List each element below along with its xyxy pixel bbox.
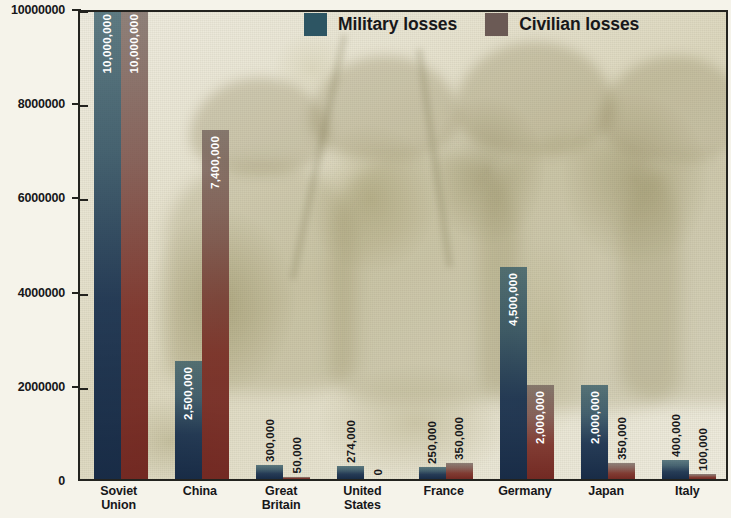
soldier-body-shape: [620, 154, 728, 404]
bar-united-states-military: 274,000: [337, 466, 364, 479]
y-tick-mark-inner: [80, 388, 88, 390]
legend-item-military: Military losses: [304, 13, 457, 36]
x-category-label-line: China: [159, 484, 240, 498]
helmet-shape: [310, 56, 460, 160]
bar-value-label: 2,000,000: [534, 391, 546, 444]
bar-italy-civilian: 100,000: [689, 474, 716, 479]
x-category-label-line: Italy: [647, 484, 728, 498]
y-tick-label: 4000000: [18, 286, 65, 300]
bar-china-civilian: 7,400,000: [202, 130, 229, 479]
legend-label-military: Military losses: [338, 14, 457, 35]
plot-area: 10,000,00010,000,0002,500,0007,400,00030…: [78, 10, 728, 481]
x-category-label: UnitedStates: [322, 484, 403, 512]
x-axis: SovietUnionChinaGreatBritainUnitedStates…: [78, 484, 728, 518]
y-tick-mark-inner: [80, 294, 88, 296]
x-category-label-line: Union: [78, 498, 159, 512]
x-category-label-line: States: [322, 498, 403, 512]
legend-swatch-military-icon: [304, 13, 327, 36]
x-category-label-line: Britain: [241, 498, 322, 512]
y-tick-label: 8000000: [18, 97, 65, 111]
bar-great-britain-civilian: 50,000: [283, 477, 310, 479]
y-tick-mark-inner: [80, 199, 88, 201]
bar-value-label: 0: [372, 469, 384, 476]
bar-value-label: 4,500,000: [507, 273, 519, 326]
x-category-label: GreatBritain: [241, 484, 322, 512]
bar-italy-military: 400,000: [662, 460, 689, 479]
bar-chart-figure: 0200000040000006000000800000010000000 10…: [0, 0, 731, 518]
x-category-label-line: Great: [241, 484, 322, 498]
x-category-label: France: [403, 484, 484, 498]
bar-soviet-union-civilian: 10,000,000: [121, 10, 148, 479]
bar-value-label: 7,400,000: [209, 136, 221, 189]
legend-item-civilian: Civilian losses: [485, 13, 639, 36]
bar-value-label: 274,000: [345, 420, 357, 463]
bar-value-label: 300,000: [264, 419, 276, 462]
bar-value-label: 350,000: [453, 417, 465, 460]
x-category-label-line: Germany: [484, 484, 565, 498]
bar-value-label: 10,000,000: [101, 14, 113, 74]
bar-value-label: 10,000,000: [128, 14, 140, 74]
bar-value-label: 2,000,000: [589, 391, 601, 444]
chart-legend: Military losses Civilian losses: [304, 13, 639, 36]
bar-japan-military: 2,000,000: [581, 385, 608, 479]
legend-label-civilian: Civilian losses: [519, 14, 639, 35]
bar-china-military: 2,500,000: [175, 361, 202, 479]
x-category-label: Italy: [647, 484, 728, 498]
y-axis: 0200000040000006000000800000010000000: [0, 0, 78, 518]
x-category-label-line: Japan: [566, 484, 647, 498]
y-tick-mark-inner: [80, 105, 88, 107]
soldier-body-shape: [330, 152, 520, 402]
y-tick-label: 10000000: [11, 3, 65, 17]
y-tick-mark-inner: [80, 11, 88, 13]
bar-germany-civilian: 2,000,000: [527, 385, 554, 479]
x-category-label-line: United: [322, 484, 403, 498]
rifle-shape: [290, 34, 347, 280]
bar-value-label: 350,000: [616, 417, 628, 460]
x-category-label-line: Soviet: [78, 484, 159, 498]
soldier-body-shape: [166, 162, 356, 392]
bar-germany-military: 4,500,000: [500, 267, 527, 479]
bar-value-label: 250,000: [426, 421, 438, 464]
bar-great-britain-military: 300,000: [256, 465, 283, 479]
bar-france-military: 250,000: [419, 467, 446, 479]
bar-japan-civilian: 350,000: [608, 463, 635, 479]
bar-value-label: 2,500,000: [182, 367, 194, 420]
y-tick-label: 2000000: [18, 380, 65, 394]
helmet-shape: [600, 56, 728, 162]
y-tick-label: 0: [58, 474, 65, 488]
legend-swatch-civilian-icon: [485, 13, 508, 36]
x-category-label: Japan: [566, 484, 647, 498]
helmet-shape: [455, 42, 615, 154]
rifle-shape: [417, 49, 453, 268]
x-category-label-line: France: [403, 484, 484, 498]
x-category-label: Germany: [484, 484, 565, 498]
x-category-label: SovietUnion: [78, 484, 159, 512]
bar-value-label: 100,000: [697, 428, 709, 471]
bar-france-civilian: 350,000: [446, 463, 473, 479]
bar-soviet-union-military: 10,000,000: [94, 10, 121, 479]
x-category-label: China: [159, 484, 240, 498]
y-tick-label: 6000000: [18, 191, 65, 205]
bar-value-label: 50,000: [291, 437, 303, 473]
bar-value-label: 400,000: [670, 414, 682, 457]
